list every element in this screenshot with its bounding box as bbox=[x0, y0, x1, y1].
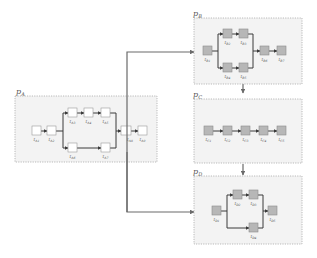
task-a5 bbox=[101, 108, 110, 117]
task-a9 bbox=[138, 126, 147, 135]
panel-b-label: pB bbox=[193, 9, 202, 19]
panel-b: pB tB1 tB2 tB3 tB4 tB5 tB6 tB7 bbox=[193, 9, 302, 84]
task-a3 bbox=[68, 108, 77, 117]
task-d2 bbox=[233, 190, 242, 199]
task-d3 bbox=[249, 190, 258, 199]
task-a4 bbox=[84, 108, 93, 117]
task-d5 bbox=[268, 206, 277, 215]
panel-d: pD tD1 tD2 tD3 tD4 tD5 bbox=[193, 167, 302, 244]
task-d4 bbox=[249, 223, 258, 232]
task-c5 bbox=[277, 126, 286, 135]
task-c2 bbox=[223, 126, 232, 135]
task-a2 bbox=[47, 126, 56, 135]
task-c4 bbox=[259, 126, 268, 135]
task-c3 bbox=[241, 126, 250, 135]
panel-d-label: pD bbox=[193, 167, 202, 177]
task-b2 bbox=[223, 29, 232, 38]
task-d1 bbox=[212, 206, 221, 215]
panel-d-box bbox=[194, 176, 302, 244]
panel-a-label: pA bbox=[16, 87, 25, 97]
task-b5 bbox=[239, 63, 248, 72]
task-a1 bbox=[32, 126, 41, 135]
task-a7 bbox=[101, 143, 110, 152]
task-b7 bbox=[277, 46, 286, 55]
task-b6 bbox=[260, 46, 269, 55]
panel-c-label: pC bbox=[193, 90, 202, 100]
task-b3 bbox=[239, 29, 248, 38]
task-a8 bbox=[121, 126, 131, 135]
task-a6 bbox=[68, 143, 77, 152]
panel-a: pA tA1 tA2 tA3 tA4 tA5 tA6 tA7 tA8 tA9 bbox=[15, 87, 157, 162]
task-b4 bbox=[223, 63, 232, 72]
process-diagram: pA tA1 tA2 tA3 tA4 tA5 tA6 tA7 tA8 tA9 bbox=[0, 0, 317, 258]
panel-c: pC tC1 tC2 tC3 tC4 tC5 bbox=[193, 90, 302, 163]
task-c1 bbox=[204, 126, 213, 135]
task-b1 bbox=[203, 46, 212, 55]
